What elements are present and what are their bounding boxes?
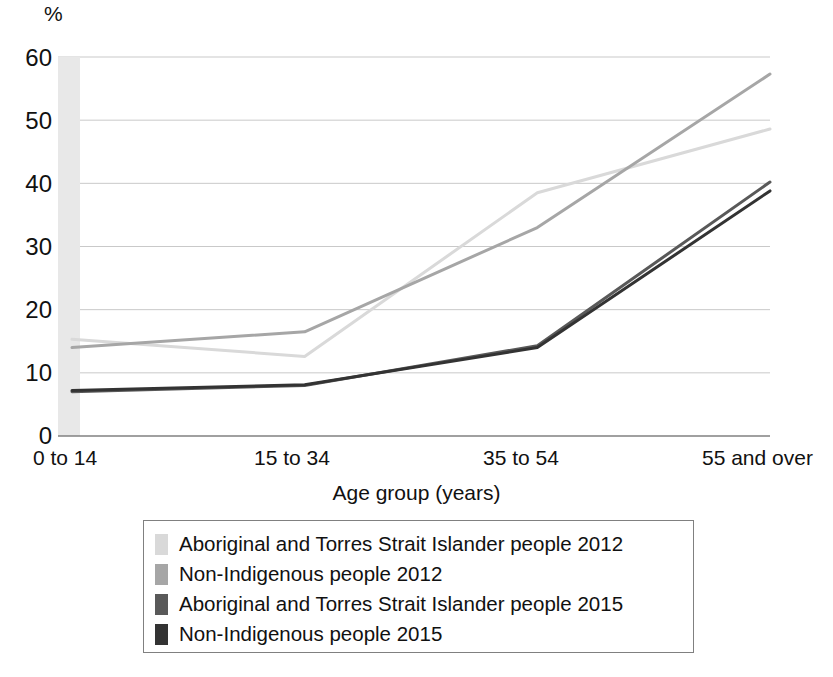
data-series-lines xyxy=(72,74,770,392)
x-tick-1: 15 to 34 xyxy=(254,447,330,469)
series-line xyxy=(72,129,770,356)
legend-item-label: Aboriginal and Torres Strait Islander pe… xyxy=(179,533,623,555)
legend-item-label: Non-Indigenous people 2012 xyxy=(179,563,442,585)
series-line xyxy=(72,74,770,348)
legend-swatch-icon xyxy=(155,534,168,555)
legend-item-label: Non-Indigenous people 2015 xyxy=(179,623,442,645)
chart-legend: Aboriginal and Torres Strait Islander pe… xyxy=(143,520,694,653)
legend-item: Non-Indigenous people 2012 xyxy=(155,559,693,589)
x-tick-2: 35 to 54 xyxy=(483,447,559,469)
legend-item: Aboriginal and Torres Strait Islander pe… xyxy=(155,529,693,559)
legend-item: Non-Indigenous people 2015 xyxy=(155,619,693,649)
x-tick-0: 0 to 14 xyxy=(33,447,97,469)
legend-item: Aboriginal and Torres Strait Islander pe… xyxy=(155,589,693,619)
x-axis-title: Age group (years) xyxy=(0,481,833,505)
series-line xyxy=(72,191,770,391)
legend-item-label: Aboriginal and Torres Strait Islander pe… xyxy=(179,593,623,615)
legend-swatch-icon xyxy=(155,624,168,645)
x-tick-3: 55 and over xyxy=(702,447,813,469)
legend-swatch-icon xyxy=(155,594,168,615)
gridlines xyxy=(58,57,770,373)
left-shaded-band xyxy=(58,57,80,436)
series-line xyxy=(72,182,770,392)
chart-container: % 0 10 20 30 40 50 60 0 to 14 15 to 34 3… xyxy=(0,0,833,677)
legend-swatch-icon xyxy=(155,564,168,585)
